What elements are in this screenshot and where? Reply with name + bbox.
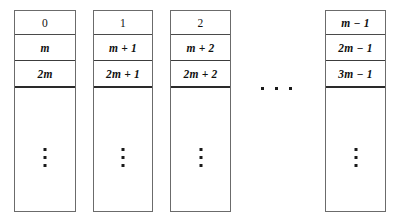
bucket-column-1: 1 m + 1 2m + 1 [93,10,153,212]
residue-class-bucket-diagram: 0 m 2m 1 m + 1 2m + 1 [0,0,397,223]
bucket-m-minus-1-cell-2: 3m − 1 [326,61,385,88]
bucket-m-minus-1-cell-1-label: 2m − 1 [338,42,372,54]
bucket-0-cell-2-label: 2m [37,68,52,80]
bucket-m-minus-1-cell-0-label: m − 1 [341,17,369,29]
bucket-1-cell-1: m + 1 [94,35,152,61]
bucket-2-cell-0-label: 2 [198,17,204,29]
bucket-0-cell-1: m [15,35,75,61]
bucket-column-0: 0 m 2m [14,10,76,212]
bucket-m-minus-1-cell-2-label: 3m − 1 [338,68,372,80]
bucket-m-minus-1-cell-0: m − 1 [326,11,385,35]
bucket-2-vertical-ellipsis-icon [199,148,202,167]
bucket-2-cell-2: 2m + 2 [171,61,230,88]
bucket-1-tail [94,88,152,211]
bucket-2-cell-2-label: 2m + 2 [184,68,218,80]
bucket-0-tail [15,88,75,211]
bucket-column-m-minus-1: m − 1 2m − 1 3m − 1 [325,10,386,212]
columns-continuation-ellipsis-icon [261,87,292,90]
bucket-1-cell-1-label: m + 1 [109,42,137,54]
bucket-m-minus-1-cell-1: 2m − 1 [326,35,385,61]
bucket-column-2: 2 m + 2 2m + 2 [170,10,231,212]
bucket-m-minus-1-tail [326,88,385,211]
bucket-0-cell-0: 0 [15,11,75,35]
bucket-0-cell-0-label: 0 [42,17,48,29]
bucket-2-cell-1: m + 2 [171,35,230,61]
bucket-m-minus-1-vertical-ellipsis-icon [354,148,357,167]
bucket-1-vertical-ellipsis-icon [122,148,125,167]
bucket-0-cell-2: 2m [15,61,75,88]
bucket-1-cell-0: 1 [94,11,152,35]
bucket-1-cell-0-label: 1 [120,17,126,29]
bucket-1-cell-2: 2m + 1 [94,61,152,88]
bucket-2-tail [171,88,230,211]
bucket-2-cell-0: 2 [171,11,230,35]
bucket-2-cell-1-label: m + 2 [187,42,215,54]
bucket-0-vertical-ellipsis-icon [44,148,47,167]
bucket-1-cell-2-label: 2m + 1 [106,68,140,80]
bucket-0-cell-1-label: m [40,42,49,54]
